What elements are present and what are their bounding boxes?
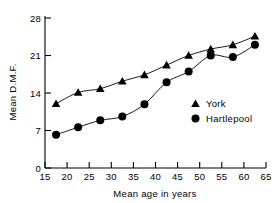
x-tick-label: 25: [84, 171, 95, 182]
data-point-york: [140, 70, 149, 78]
data-point-hartlepool: [229, 53, 237, 61]
legend-label-york: York: [206, 98, 226, 109]
data-point-york: [229, 40, 238, 48]
x-tick-label: 15: [40, 171, 51, 182]
x-tick-label: 45: [172, 171, 183, 182]
x-tick-label: 20: [62, 171, 73, 182]
legend: York Hartlepool: [191, 98, 252, 124]
y-axis-ticks: [45, 18, 51, 168]
y-tick-label: 28: [30, 13, 41, 24]
circle-marker-icon: [192, 115, 200, 123]
y-tick-label: 21: [30, 50, 41, 61]
x-tick-label: 65: [261, 171, 272, 182]
data-point-york: [52, 99, 61, 107]
legend-entry-york: York: [191, 98, 226, 109]
chart-figure: 07142128 1520253035404550556065 Mean age…: [0, 0, 278, 203]
data-point-hartlepool: [74, 123, 82, 131]
data-point-york: [162, 61, 171, 69]
data-point-hartlepool: [185, 68, 193, 76]
data-point-hartlepool: [251, 41, 259, 49]
data-point-hartlepool: [140, 100, 148, 108]
data-point-hartlepool: [118, 113, 126, 121]
y-axis-tick-labels: 07142128: [30, 13, 41, 174]
legend-label-hartlepool: Hartlepool: [206, 113, 252, 124]
data-point-hartlepool: [52, 131, 60, 139]
y-tick-label: 14: [30, 88, 41, 99]
dmf-vs-age-line-chart: 07142128 1520253035404550556065 Mean age…: [0, 0, 278, 203]
data-point-hartlepool: [207, 52, 215, 60]
x-tick-label: 60: [238, 171, 249, 182]
x-tick-label: 35: [128, 171, 139, 182]
x-axis-ticks: [45, 162, 266, 168]
x-tick-label: 50: [194, 171, 205, 182]
x-axis-tick-labels: 1520253035404550556065: [40, 171, 272, 182]
legend-entry-hartlepool: Hartlepool: [192, 113, 253, 124]
y-tick-label: 7: [36, 125, 41, 136]
x-tick-label: 40: [150, 171, 161, 182]
triangle-marker-icon: [191, 100, 200, 108]
data-point-york: [251, 32, 260, 40]
x-tick-label: 55: [216, 171, 227, 182]
y-axis-title: Mean D.M.F.: [7, 63, 18, 120]
data-point-york: [184, 51, 193, 59]
x-axis-title: Mean age in years: [113, 188, 196, 199]
data-point-hartlepool: [163, 78, 171, 86]
x-tick-label: 30: [106, 171, 117, 182]
data-point-hartlepool: [96, 116, 104, 124]
